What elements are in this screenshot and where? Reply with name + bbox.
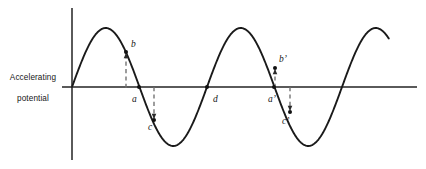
annotation-d: d [205,85,218,104]
point-dot-b [124,50,128,54]
point-dot-c [152,118,156,122]
point-label-a-prime: a’ [268,94,276,104]
point-label-c-prime: c’ [282,116,289,126]
point-label-c: c [148,122,153,132]
point-label-d: d [213,94,218,104]
point-dot-a [137,85,141,89]
axes-group [62,8,417,160]
point-dot-d [205,85,209,89]
sine-wave-plot: bacdb’a’c’ [0,0,426,169]
annotation-b-prime: b’ [273,54,287,88]
point-dot-c-prime [288,110,292,114]
point-dot-a-prime [272,85,276,89]
point-label-a: a [132,94,137,104]
annotation-c-prime: c’ [282,87,292,126]
annotation-layer: bacdb’a’c’ [124,39,293,132]
figure-root: Accelerating potential bacdb’a’c’ [0,0,426,169]
point-label-b-prime: b’ [279,54,287,64]
annotation-a: a [132,85,141,104]
point-label-b: b [131,39,136,49]
annotation-a-prime: a’ [268,85,276,104]
point-dot-b-prime [273,66,277,70]
